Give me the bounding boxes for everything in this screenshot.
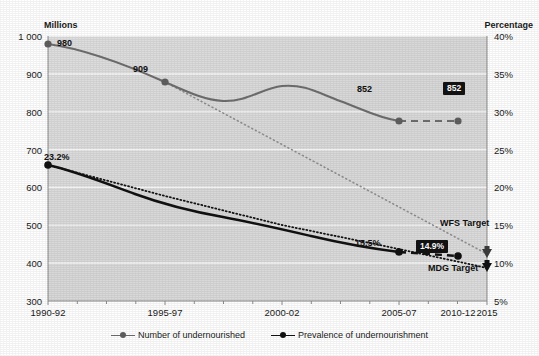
data-point-2008-prevalence [395, 248, 403, 256]
y-axis-left-tick-1000: 1 000 [0, 31, 42, 42]
x-axis-tick-2000-02: 2000-02 [242, 307, 322, 318]
y-axis-right-tick-15: 15% [494, 220, 538, 231]
data-point-1990-number [44, 40, 51, 47]
annotation-wfs-target: WFS Target [440, 218, 489, 228]
legend-label-prevalence-undernourishment: Prevalence of undernourishment [298, 330, 428, 340]
y-axis-right-tick-10: 10% [494, 258, 538, 269]
y-axis-right-tick-35: 35% [494, 69, 538, 80]
x-axis-tick-1990-92: 1990-92 [8, 307, 88, 318]
y-axis-right-tick-40: 40% [494, 31, 538, 42]
chart-legend: Number of undernourished Prevalence of u… [0, 330, 539, 340]
y-axis-right-tick-20: 20% [494, 182, 538, 193]
annotation-852: 852 [357, 84, 372, 94]
y-axis-left-tick-900: 900 [0, 69, 42, 80]
y-axis-left-tick-500: 500 [0, 220, 42, 231]
legend-item-prevalence-undernourishment[interactable]: Prevalence of undernourishment [271, 330, 428, 340]
data-point-2011-prevalence [454, 252, 462, 260]
chart-container: Millions Percentage 1 000 900 800 700 60… [0, 0, 539, 356]
annotation-980: 980 [57, 38, 72, 48]
x-axis-ticks [48, 301, 487, 305]
legend-label-number-undernourished: Number of undernourished [138, 330, 245, 340]
legend-item-number-undernourished[interactable]: Number of undernourished [111, 330, 245, 340]
data-point-2008-number [395, 117, 402, 124]
y-axis-left-title: Millions [44, 20, 78, 30]
annotation-23-2-percent: 23.2% [44, 152, 70, 162]
plot-background [48, 36, 487, 301]
legend-marker-number-undernourished [111, 331, 135, 340]
x-axis-tick-2015: 2015 [447, 307, 527, 318]
y-axis-left-tick-600: 600 [0, 182, 42, 193]
y-axis-left-tick-700: 700 [0, 145, 42, 156]
data-point-2011-number [454, 117, 461, 124]
data-point-1990-prevalence [44, 161, 52, 169]
annotation-909: 909 [133, 64, 148, 74]
x-axis-tick-1995-97: 1995-97 [125, 307, 205, 318]
legend-marker-prevalence-undernourishment [271, 331, 295, 340]
y-axis-right-tick-5: 5% [494, 296, 538, 307]
y-axis-left-tick-800: 800 [0, 107, 42, 118]
y-axis-right-tick-30: 30% [494, 107, 538, 118]
y-axis-left-tick-400: 400 [0, 258, 42, 269]
annotation-14-9-percent-boxed: 14.9% [416, 240, 448, 253]
y-axis-right-tick-25: 25% [494, 145, 538, 156]
data-point-1996-number [161, 78, 168, 85]
annotation-mdg-target: MDG Target [428, 263, 478, 273]
y-axis-right-title: Percentage [484, 20, 533, 30]
chart-plot-area [0, 0, 539, 356]
annotation-852-boxed: 852 [443, 82, 465, 95]
y-axis-left-tick-300: 300 [0, 296, 42, 307]
annotation-15-5-percent: 15.5% [355, 238, 381, 248]
